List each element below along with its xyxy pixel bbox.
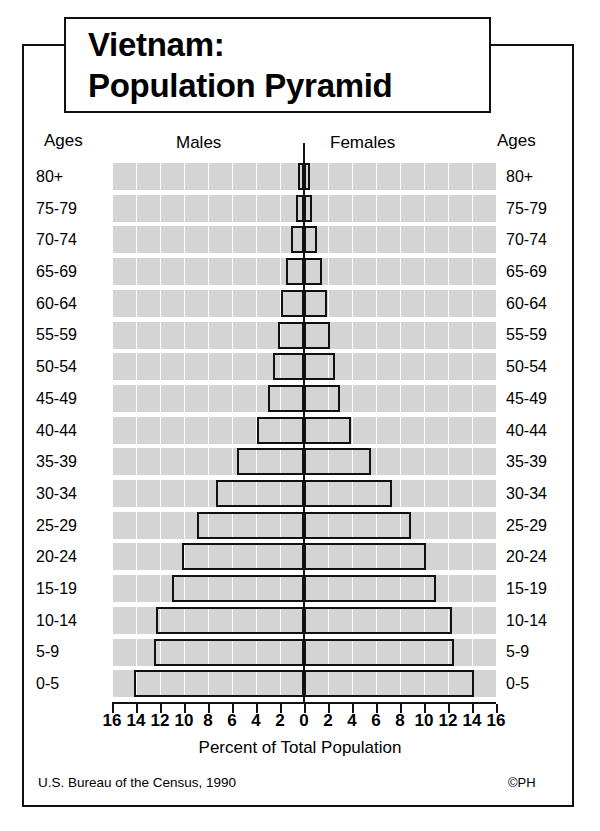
x-tick-label: 8 [387,711,413,731]
x-tick-label: 6 [219,711,245,731]
age-label-70-74: 70-74 [36,226,116,258]
age-label-50-54: 50-54 [506,353,586,385]
bar-male-30-34 [216,480,304,507]
age-label-45-49: 45-49 [506,385,586,417]
age-label-30-34: 30-34 [506,480,586,512]
title-line-2: Population Pyramid [88,66,489,107]
source-note: U.S. Bureau of the Census, 1990 [38,775,236,790]
x-axis-tick-labels: 1614121086420246810121416 [0,711,600,733]
bar-male-10-14 [156,607,304,634]
x-axis-title: Percent of Total Population [0,738,600,758]
bar-female-10-14 [304,607,452,634]
age-label-50-54: 50-54 [36,353,116,385]
age-label-25-29: 25-29 [506,512,586,544]
x-tick-label: 14 [123,711,149,731]
bar-male-0-5 [134,670,304,697]
age-label-20-24: 20-24 [506,543,586,575]
bar-male-25-29 [197,512,304,539]
age-label-30-34: 30-34 [36,480,116,512]
bar-female-50-54 [304,353,335,380]
bar-female-5-9 [304,639,454,666]
x-tick-label: 2 [315,711,341,731]
age-label-20-24: 20-24 [36,543,116,575]
bar-male-55-59 [278,322,304,349]
x-tick-label: 16 [99,711,125,731]
bar-female-65-69 [304,258,322,285]
bar-male-65-69 [286,258,304,285]
age-label-60-64: 60-64 [506,290,586,322]
gridline [136,163,137,702]
bar-male-45-49 [268,385,304,412]
bar-female-75-79 [304,195,312,222]
x-tick-label: 4 [339,711,365,731]
age-label-80+: 80+ [506,163,586,195]
bar-female-0-5 [304,670,474,697]
age-label-70-74: 70-74 [506,226,586,258]
age-label-0-5: 0-5 [36,670,116,702]
age-label-5-9: 5-9 [506,638,586,670]
x-tick-label: 16 [483,711,509,731]
age-labels-right: 80+75-7970-7465-6960-6455-5950-5445-4940… [506,163,586,702]
chart-header: Ages Males Females Ages [0,131,600,157]
age-label-55-59: 55-59 [36,321,116,353]
copyright-note: ©PH [508,775,536,790]
title-box: Vietnam: Population Pyramid [64,17,491,113]
age-label-55-59: 55-59 [506,321,586,353]
x-tick-label: 4 [243,711,269,731]
age-label-15-19: 15-19 [506,575,586,607]
x-tick-label: 12 [147,711,173,731]
age-label-75-79: 75-79 [36,195,116,227]
age-label-5-9: 5-9 [36,638,116,670]
gridline [472,163,473,702]
bar-male-5-9 [154,639,304,666]
gridline [496,163,497,702]
age-label-10-14: 10-14 [36,607,116,639]
x-tick-label: 0 [291,711,317,731]
age-label-80+: 80+ [36,163,116,195]
bar-male-50-54 [273,353,304,380]
age-label-45-49: 45-49 [36,385,116,417]
bar-female-35-39 [304,448,371,475]
bar-female-55-59 [304,322,330,349]
bar-female-45-49 [304,385,340,412]
bar-male-40-44 [257,417,304,444]
title-line-1: Vietnam: [88,25,489,66]
x-tick-label: 10 [171,711,197,731]
age-label-10-14: 10-14 [506,607,586,639]
bar-female-30-34 [304,480,392,507]
bar-male-70-74 [291,226,304,253]
x-axis [112,702,496,711]
x-tick-label: 10 [411,711,437,731]
bar-female-80+ [304,163,310,190]
age-label-35-39: 35-39 [506,448,586,480]
bar-female-40-44 [304,417,351,444]
x-tick-label: 8 [195,711,221,731]
bar-female-20-24 [304,543,426,570]
bar-male-20-24 [182,543,304,570]
x-tick-label: 6 [363,711,389,731]
age-label-40-44: 40-44 [36,417,116,449]
header-ages-right: Ages [497,131,536,151]
x-tick-label: 2 [267,711,293,731]
x-tick-label: 12 [435,711,461,731]
bar-female-15-19 [304,575,436,602]
age-label-65-69: 65-69 [506,258,586,290]
legend-label-males: Males [176,133,221,153]
x-tick-label: 14 [459,711,485,731]
age-label-25-29: 25-29 [36,512,116,544]
age-label-65-69: 65-69 [36,258,116,290]
bar-female-25-29 [304,512,411,539]
age-label-0-5: 0-5 [506,670,586,702]
legend-label-females: Females [330,133,395,153]
age-label-40-44: 40-44 [506,417,586,449]
bar-female-60-64 [304,290,327,317]
age-label-75-79: 75-79 [506,195,586,227]
header-ages-left: Ages [44,131,83,151]
bar-male-60-64 [281,290,304,317]
bar-male-15-19 [172,575,304,602]
age-label-35-39: 35-39 [36,448,116,480]
bar-male-35-39 [237,448,304,475]
age-label-60-64: 60-64 [36,290,116,322]
bar-male-75-79 [296,195,304,222]
age-labels-left: 80+75-7970-7465-6960-6455-5950-5445-4940… [36,163,116,702]
